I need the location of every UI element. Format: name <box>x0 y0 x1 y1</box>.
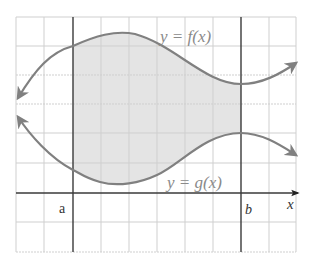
bound-b-label: b <box>245 202 252 217</box>
curve-f-label: y = f(x) <box>158 27 211 46</box>
area-between-curves-diagram: y = f(x) y = g(x) x a b <box>0 0 313 267</box>
x-axis-label: x <box>286 196 294 212</box>
curve-g-label: y = g(x) <box>165 173 222 192</box>
bound-a-label: a <box>59 201 66 216</box>
